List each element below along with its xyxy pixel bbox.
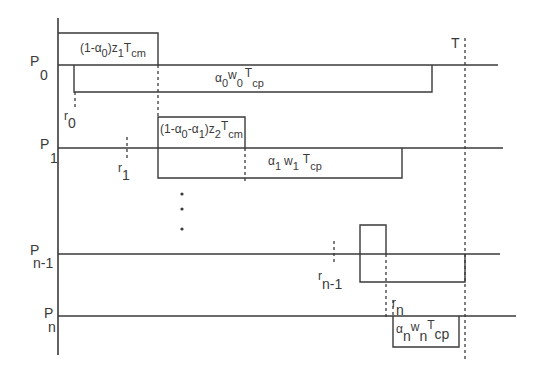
p1-comm-label: (1-α0-α1)z2Tcm [160,119,243,140]
p1-comp-label: α1w1Tcp [268,152,322,172]
rn-label: rn [392,296,404,318]
pn-1-sub: n-1 [33,255,53,271]
p0-comm-label: (1-α0)z1Tcm [80,41,146,59]
processor-pn: P n rn αnwnTcp [44,296,516,347]
pn-1-comp-box [360,254,465,282]
rn-1-label: rn-1 [318,269,342,292]
deadline-label: T [451,35,460,51]
processor-pn-1: P n-1 rn-1 [30,225,500,292]
p0-sub: 0 [40,67,48,83]
p0-comp-label: α0w0Tcp [215,66,264,89]
p1-sub: 1 [50,150,58,166]
timing-diagram: T P 0 (1-α0)z1Tcm α0w0Tcp r0 P 1 (1-α0-α… [0,0,538,378]
pn-sub: n [48,319,56,335]
r0-label: r0 [64,109,76,131]
p0-label: P [30,53,39,69]
processor-p1: P 1 (1-α0-α1)z2Tcm α1w1Tcp r1 [40,117,503,183]
p1-label: P [40,136,49,152]
pn-1-comm-box [360,225,386,254]
r1-label: r1 [118,161,130,183]
ellipsis-dots [180,192,183,230]
pn-comp-label: αnwnTcp [396,318,450,344]
processor-p0: P 0 (1-α0)z1Tcm α0w0Tcp r0 [30,33,498,131]
